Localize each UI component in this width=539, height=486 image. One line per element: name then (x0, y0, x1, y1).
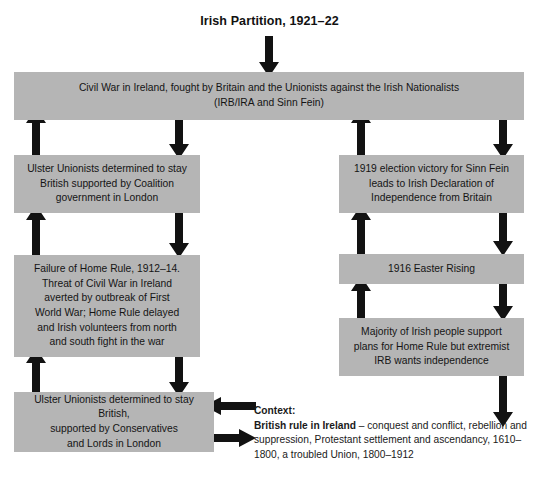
box-right-3-line3: IRB wants independence (345, 354, 518, 369)
box-left-2-line5: and Irish volunteers from north (20, 321, 194, 336)
box-left-3-line2: British, (20, 407, 208, 422)
box-left-3: Ulster Unionists determined to stay Brit… (14, 392, 214, 452)
flowchart-diagram: Irish Partition, 1921–22 Civil War in Ir… (0, 0, 539, 486)
context-heading: Context: (254, 404, 529, 419)
box-left-2-line2: Threat of Civil War in Ireland (20, 277, 194, 292)
arrow-left-col-down-3 (168, 350, 190, 398)
context-block: Context: British rule in Ireland – conqu… (254, 404, 529, 463)
box-left-1-line2: British supported by Coalition (20, 177, 194, 192)
box-left-2-line1: Failure of Home Rule, 1912–14. (20, 262, 194, 277)
box-left-3-line4: and Lords in London (20, 437, 208, 452)
box-top-banner-line1: Civil War in Ireland, fought by Britain … (20, 81, 518, 96)
box-top-banner: Civil War in Ireland, fought by Britain … (14, 72, 524, 120)
box-top-banner-line2: (IRB/IRA and Sinn Fein) (20, 96, 518, 111)
box-right-1-line2: leads to Irish Declaration of (345, 177, 518, 192)
box-right-1-line1: 1919 election victory for Sinn Fein (345, 162, 518, 177)
arrow-left-col-down-2 (168, 207, 190, 259)
page-title: Irish Partition, 1921–22 (0, 14, 539, 28)
arrow-left-col-up-2 (25, 205, 47, 261)
context-lead: British rule in Ireland (254, 420, 356, 431)
box-right-2: 1916 Easter Rising (339, 254, 524, 284)
box-left-2-line6: and south fight in the war (20, 335, 194, 350)
box-left-2-line4: World War; Home Rule delayed (20, 306, 194, 321)
box-left-1-line3: government in London (20, 191, 194, 206)
arrow-right-col-down-3 (492, 278, 514, 322)
box-right-1-line3: Independence from Britain (345, 191, 518, 206)
box-left-1: Ulster Unionists determined to stay Brit… (14, 155, 200, 213)
box-right-1: 1919 election victory for Sinn Fein lead… (339, 155, 524, 213)
box-right-3-line1: Majority of Irish people support (345, 325, 518, 340)
box-left-3-line3: supported by Conservatives (20, 422, 208, 437)
box-left-2-line3: averted by outbreak of First (20, 291, 194, 306)
box-left-2: Failure of Home Rule, 1912–14. Threat of… (14, 255, 200, 357)
box-right-3: Majority of Irish people support plans f… (339, 318, 524, 376)
box-right-2-line1: 1916 Easter Rising (345, 262, 518, 277)
arrow-right-col-down-2 (492, 207, 514, 257)
box-left-3-line1: Ulster Unionists determined to stay (20, 393, 208, 408)
context-text: British rule in Ireland – conquest and c… (254, 419, 529, 463)
box-left-1-line1: Ulster Unionists determined to stay (20, 162, 194, 177)
box-right-3-line2: plans for Home Rule but extremist (345, 340, 518, 355)
